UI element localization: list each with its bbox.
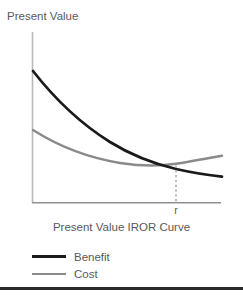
legend-label-cost: Cost: [74, 267, 98, 281]
series-line-cost: [33, 130, 222, 165]
chart-title: Present Value IROR Curve: [0, 220, 243, 234]
legend-item-benefit: Benefit: [32, 248, 212, 265]
chart-legend: Benefit Cost: [32, 248, 212, 282]
legend-swatch-cost-icon: [32, 273, 66, 275]
x-axis-tick-r: r: [168, 204, 184, 216]
legend-label-benefit: Benefit: [74, 250, 110, 264]
present-value-iror-chart-figure: Present Value r Present Value IROR Curve…: [0, 0, 243, 297]
bottom-divider: [0, 287, 243, 290]
legend-item-cost: Cost: [32, 265, 212, 282]
legend-swatch-benefit-icon: [32, 255, 66, 258]
